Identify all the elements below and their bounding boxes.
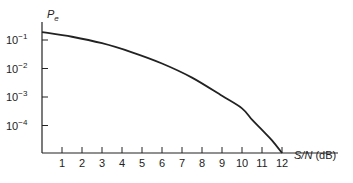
x-tick-label: 12 [276, 157, 288, 169]
y-tick-label: 10−2 [6, 61, 28, 75]
x-tick-label: 7 [179, 157, 185, 169]
error-probability-chart: 10−110−210−310−4 123456789101112 Pe S/N … [0, 0, 353, 183]
x-ticks: 123456789101112 [59, 147, 288, 169]
error-curve [42, 32, 282, 153]
x-tick-label: 11 [256, 157, 267, 169]
y-tick-label: 10−4 [6, 118, 28, 132]
axes [42, 22, 338, 153]
x-tick-label: 10 [236, 157, 248, 169]
y-axis-title: Pe [47, 8, 59, 23]
x-tick-label: 6 [159, 157, 165, 169]
x-tick-label: 5 [139, 157, 145, 169]
x-axis-title: S/N (dB) [294, 149, 336, 161]
x-tick-label: 3 [99, 157, 105, 169]
y-tick-label: 10−3 [6, 89, 28, 103]
x-tick-label: 9 [219, 157, 225, 169]
x-tick-label: 1 [59, 157, 65, 169]
x-tick-label: 2 [79, 157, 85, 169]
x-tick-label: 8 [199, 157, 205, 169]
y-tick-label: 10−1 [6, 32, 28, 46]
x-tick-label: 4 [119, 157, 125, 169]
